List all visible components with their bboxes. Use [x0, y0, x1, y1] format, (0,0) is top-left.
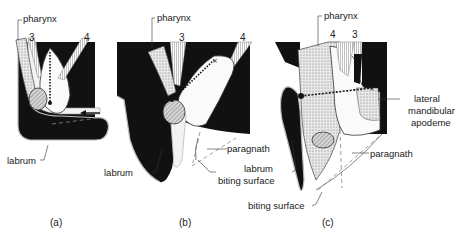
label-pharynx-a: pharynx [23, 14, 57, 24]
panel-c: × [275, 16, 400, 206]
label-lateral-mandibular-apodeme: lateral [412, 94, 440, 104]
condyle-b [163, 100, 185, 124]
label-muscle-3-c: 3 [352, 30, 358, 40]
head-capsule-c [275, 42, 300, 68]
label-apodeme-line-3: apodeme [411, 118, 451, 128]
label-biting-surface-b: biting surface [218, 176, 275, 186]
label-muscle-4-b: 4 [240, 33, 246, 43]
label-muscle-4-c: 4 [330, 30, 336, 40]
labrum-shape-c [281, 87, 304, 191]
label-muscle-3-a: 3 [29, 33, 35, 43]
label-biting-surface-c: biting surface [248, 201, 305, 211]
label-paragnath-b: paragnath [227, 144, 270, 154]
caption-b: (b) [179, 218, 191, 228]
condyle-c [312, 132, 334, 148]
label-paragnath-c: paragnath [370, 149, 413, 159]
svg-text:×: × [369, 85, 375, 93]
caption-a: (a) [50, 218, 62, 228]
svg-text:×: × [212, 57, 218, 65]
label-apodeme-line-1: lateral [414, 94, 440, 104]
label-pharynx-c: pharynx [324, 11, 358, 21]
label-labrum-c: labrum [244, 164, 273, 174]
mouthparts-diagram: × × [0, 0, 459, 234]
label-muscle-4-a: 4 [84, 33, 90, 43]
label-apodeme-line-2: mandibular [408, 106, 455, 116]
label-muscle-3-b: 3 [179, 33, 185, 43]
caption-c: (c) [322, 218, 334, 228]
condyle-a [29, 88, 47, 110]
label-labrum-a: labrum [7, 156, 36, 166]
label-pharynx-b: pharynx [157, 13, 191, 23]
label-labrum-b: labrum [104, 168, 133, 178]
